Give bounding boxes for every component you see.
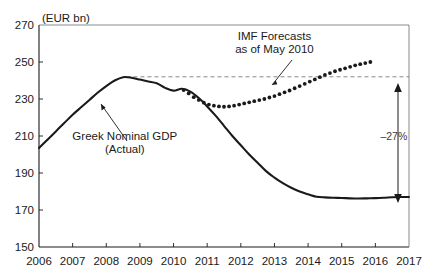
series-imf-forecast — [182, 60, 372, 109]
forecast-dot — [262, 97, 266, 101]
forecast-dot — [217, 105, 221, 109]
annotation-text-layer: IMF Forecastsas of May 2010Greek Nominal… — [72, 30, 407, 155]
y-tick-label: 190 — [15, 167, 34, 179]
forecast-dot — [328, 71, 332, 75]
forecast-dot — [278, 92, 282, 96]
forecast-dot — [293, 86, 297, 90]
y-tick-label: 230 — [15, 93, 34, 105]
imf-forecast-label: as of May 2010 — [235, 43, 314, 55]
forecast-dot — [202, 101, 206, 105]
forecast-dot — [247, 100, 251, 104]
forecast-dot — [237, 103, 241, 107]
x-tick-label: 2016 — [363, 255, 389, 267]
forecast-dot — [207, 103, 211, 107]
forecast-dot — [242, 102, 246, 106]
decline-arrow — [394, 83, 402, 203]
x-tick-label: 2017 — [396, 255, 422, 267]
forecast-dot — [323, 73, 327, 77]
x-tick-label: 2007 — [60, 255, 86, 267]
x-tick-label: 2012 — [228, 255, 254, 267]
forecast-dot — [257, 98, 261, 102]
forecast-dot — [353, 63, 357, 67]
x-tick-label: 2015 — [329, 255, 355, 267]
unit-label: (EUR bn) — [42, 12, 90, 24]
forecast-dot — [273, 94, 277, 98]
forecast-dot — [363, 61, 367, 65]
forecast-dot — [197, 98, 201, 102]
forecast-dot — [313, 77, 317, 81]
forecast-dot — [252, 99, 256, 103]
x-tick-label: 2010 — [161, 255, 187, 267]
forecast-dot — [222, 105, 226, 109]
y-tick-label: 170 — [15, 204, 34, 216]
forecast-dot — [348, 65, 352, 69]
forecast-dot — [338, 68, 342, 72]
forecast-dot — [358, 62, 362, 66]
x-tick-label: 2014 — [295, 255, 321, 267]
forecast-dot — [283, 90, 287, 94]
forecast-dot — [212, 104, 216, 108]
x-tick-label: 2006 — [26, 255, 52, 267]
forecast-dot — [308, 80, 312, 84]
x-tick-label: 2008 — [93, 255, 119, 267]
x-tick-label: 2011 — [195, 255, 220, 267]
y-tick-label: 250 — [15, 56, 34, 68]
forecast-dot — [288, 89, 292, 93]
y-tick-label: 270 — [15, 19, 34, 31]
imf-forecast-label: IMF Forecasts — [238, 30, 312, 42]
greek-gdp-label: (Actual) — [105, 143, 145, 155]
gdp-line-chart: (EUR bn) 270250230210190170150 200620072… — [0, 0, 434, 276]
x-tick-label: 2009 — [127, 255, 153, 267]
forecast-dot — [232, 104, 236, 108]
chart-container: (EUR bn) 270250230210190170150 200620072… — [0, 0, 434, 276]
greek-gdp-label: Greek Nominal GDP — [72, 130, 177, 142]
x-tick-label: 2013 — [262, 255, 288, 267]
forecast-dot — [192, 95, 196, 99]
forecast-dot — [318, 75, 322, 79]
forecast-dot — [182, 88, 186, 92]
forecast-dot — [298, 84, 302, 88]
y-tick-label: 210 — [15, 130, 34, 142]
forecast-dot — [368, 60, 372, 64]
imf-forecast-leader — [272, 60, 292, 85]
forecast-dot — [333, 69, 337, 73]
y-tick-label: 150 — [15, 241, 34, 253]
forecast-dot — [343, 66, 347, 70]
forecast-dot — [303, 82, 307, 86]
forecast-dot — [268, 96, 272, 100]
forecast-dot — [187, 92, 191, 96]
decline-percent-label: –27% — [380, 130, 407, 142]
forecast-dot — [227, 105, 231, 109]
